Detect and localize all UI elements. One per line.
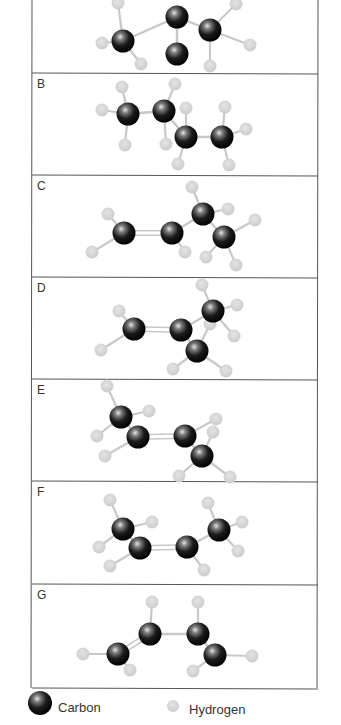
hydrogen-atom [204, 60, 217, 73]
hydrogen-atom [96, 104, 109, 117]
carbon-atom [112, 518, 135, 541]
molecule-figure: BCDEFG Carbon Hydrogen [0, 0, 341, 725]
panel-divider [32, 379, 318, 380]
hydrogen-atom [160, 138, 173, 151]
hydrogen-atom [180, 102, 193, 115]
carbon-atom [187, 623, 210, 646]
molecule-panel-D: D [32, 279, 318, 381]
hydrogen-atom [249, 214, 262, 227]
carbon-atom [174, 425, 197, 448]
hydrogen-atom [198, 564, 211, 577]
molecule-panel-A [32, 0, 318, 74]
carbon-atom [161, 222, 184, 245]
hydrogen-atom [104, 494, 117, 507]
hydrogen-atom [200, 251, 213, 264]
hydrogen-atom [172, 158, 185, 171]
hydrogen-atom [146, 596, 159, 609]
hydrogen-atom [116, 81, 129, 94]
carbon-atom [213, 226, 236, 249]
legend-hydrogen-icon [167, 700, 179, 712]
carbon-atom [123, 318, 146, 341]
panel-divider [32, 73, 318, 74]
hydrogen-atom [192, 596, 205, 609]
carbon-atom [175, 126, 198, 149]
legend-hydrogen-label: Hydrogen [189, 702, 245, 717]
carbon-atom [117, 103, 140, 126]
panel-divider [32, 688, 318, 689]
hydrogen-atom [102, 208, 115, 221]
carbon-atom [107, 643, 130, 666]
hydrogen-atom [113, 305, 126, 318]
hydrogen-atom [187, 665, 200, 678]
panel-label: B [37, 77, 45, 91]
carbon-atom [199, 19, 222, 42]
legend-carbon-label: Carbon [58, 700, 101, 715]
hydrogen-atom [104, 560, 117, 573]
hydrogen-atom [240, 123, 253, 136]
molecule-panel-G: G [32, 588, 318, 689]
hydrogen-atom [222, 203, 235, 216]
carbon-atom [166, 6, 189, 29]
carbon-atom [110, 406, 133, 429]
panel-divider [32, 481, 318, 482]
hydrogen-atom [228, 330, 241, 343]
panel-divider [32, 277, 318, 278]
carbon-atom [186, 340, 209, 363]
carbon-atom [153, 100, 176, 123]
carbon-atom [204, 644, 227, 667]
carbon-atom [192, 203, 215, 226]
hydrogen-atom [173, 470, 186, 483]
hydrogen-atom [119, 139, 132, 152]
hydrogen-atom [196, 279, 209, 292]
panel-label: C [37, 179, 46, 193]
panel-label: D [37, 281, 46, 295]
carbon-atom [112, 30, 135, 53]
hydrogen-atom [202, 497, 215, 510]
hydrogen-atom [95, 344, 108, 357]
hydrogen-atom [232, 545, 245, 558]
hydrogen-atom [167, 363, 180, 376]
hydrogen-atom [99, 450, 112, 463]
hydrogen-atom [146, 516, 159, 529]
carbon-atom [208, 519, 231, 542]
carbon-atom [211, 126, 234, 149]
legend: Carbon Hydrogen [28, 691, 245, 717]
hydrogen-atom [223, 159, 236, 172]
hydrogen-atom [207, 426, 220, 439]
hydrogen-atom [246, 650, 259, 663]
hydrogen-atom [219, 101, 232, 114]
carbon-atom [113, 222, 136, 245]
carbon-atom [170, 319, 193, 342]
hydrogen-atom [220, 365, 233, 378]
hydrogen-atom [101, 380, 114, 393]
panel-label: E [37, 383, 45, 397]
carbon-atom [191, 445, 214, 468]
carbon-atom [127, 426, 150, 449]
hydrogen-atom [244, 39, 257, 52]
carbon-atom [139, 623, 162, 646]
legend-carbon-icon [28, 691, 52, 715]
molecule-panel-F: F [32, 485, 318, 585]
hydrogen-atom [143, 405, 156, 418]
frame-left-border [31, 0, 32, 688]
hydrogen-atom [186, 181, 199, 194]
panel-divider [32, 175, 318, 176]
hydrogen-atom [236, 516, 249, 529]
molecule-panel-C: C [32, 179, 318, 278]
panel-label: F [37, 485, 44, 499]
carbon-atom [176, 536, 199, 559]
hydrogen-atom [210, 413, 223, 426]
hydrogen-atom [86, 246, 99, 259]
hydrogen-atom [179, 246, 192, 259]
hydrogen-atom [169, 78, 182, 91]
hydrogen-atom [96, 37, 109, 50]
carbon-atom [202, 300, 225, 323]
hydrogen-atom [112, 0, 125, 10]
hydrogen-atom [230, 259, 243, 272]
molecule-panel-E: E [32, 380, 318, 484]
hydrogen-atom [231, 299, 244, 312]
hydrogen-atom [224, 471, 237, 484]
molecule-panel-B: B [32, 77, 318, 176]
hydrogen-atom [135, 58, 148, 71]
panels: BCDEFG [31, 0, 318, 689]
